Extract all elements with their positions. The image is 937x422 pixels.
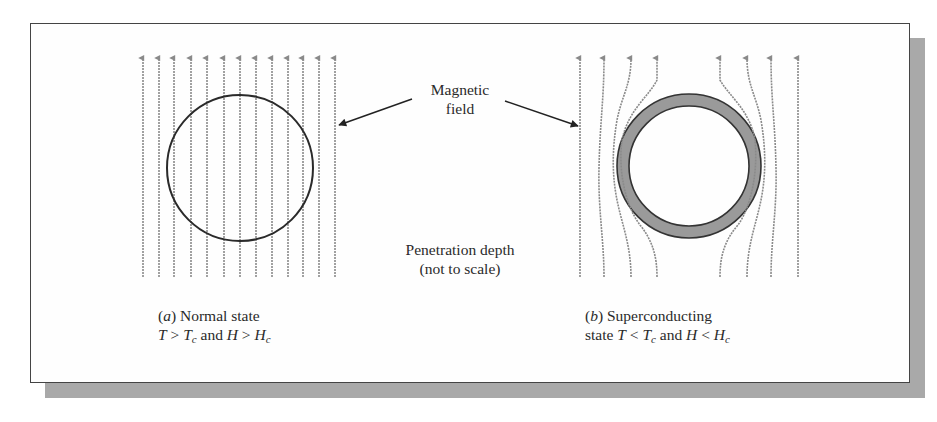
callout-arrow-left [339, 99, 412, 125]
magnetic-field-line2: field [405, 99, 515, 118]
penetration-depth-label: Penetration depth (not to scale) [370, 240, 550, 278]
penetration-depth-line1: Penetration depth [370, 240, 550, 259]
penetration-depth-line2: (not to scale) [370, 259, 550, 278]
panel-a-title: (a) Normal state [158, 306, 358, 325]
magnetic-field-line1: Magnetic [405, 80, 515, 99]
panel-b-field-lines [580, 58, 798, 277]
panel-a-field-lines [143, 58, 335, 277]
diagram-canvas [0, 0, 937, 422]
magnetic-field-label: Magnetic field [405, 80, 515, 118]
panel-a-condition: T > Tc and H > Hc [158, 325, 358, 344]
panel-b-penetration-ring [623, 100, 755, 232]
panel-b-title: (b) Superconducting [585, 306, 825, 325]
panel-a-caption: (a) Normal state T > Tc and H > Hc [158, 306, 358, 344]
panel-b-caption: (b) Superconducting state T < Tc and H <… [585, 306, 825, 344]
panel-b-condition: state T < Tc and H < Hc [585, 325, 825, 344]
callout-arrow-right [505, 101, 578, 126]
